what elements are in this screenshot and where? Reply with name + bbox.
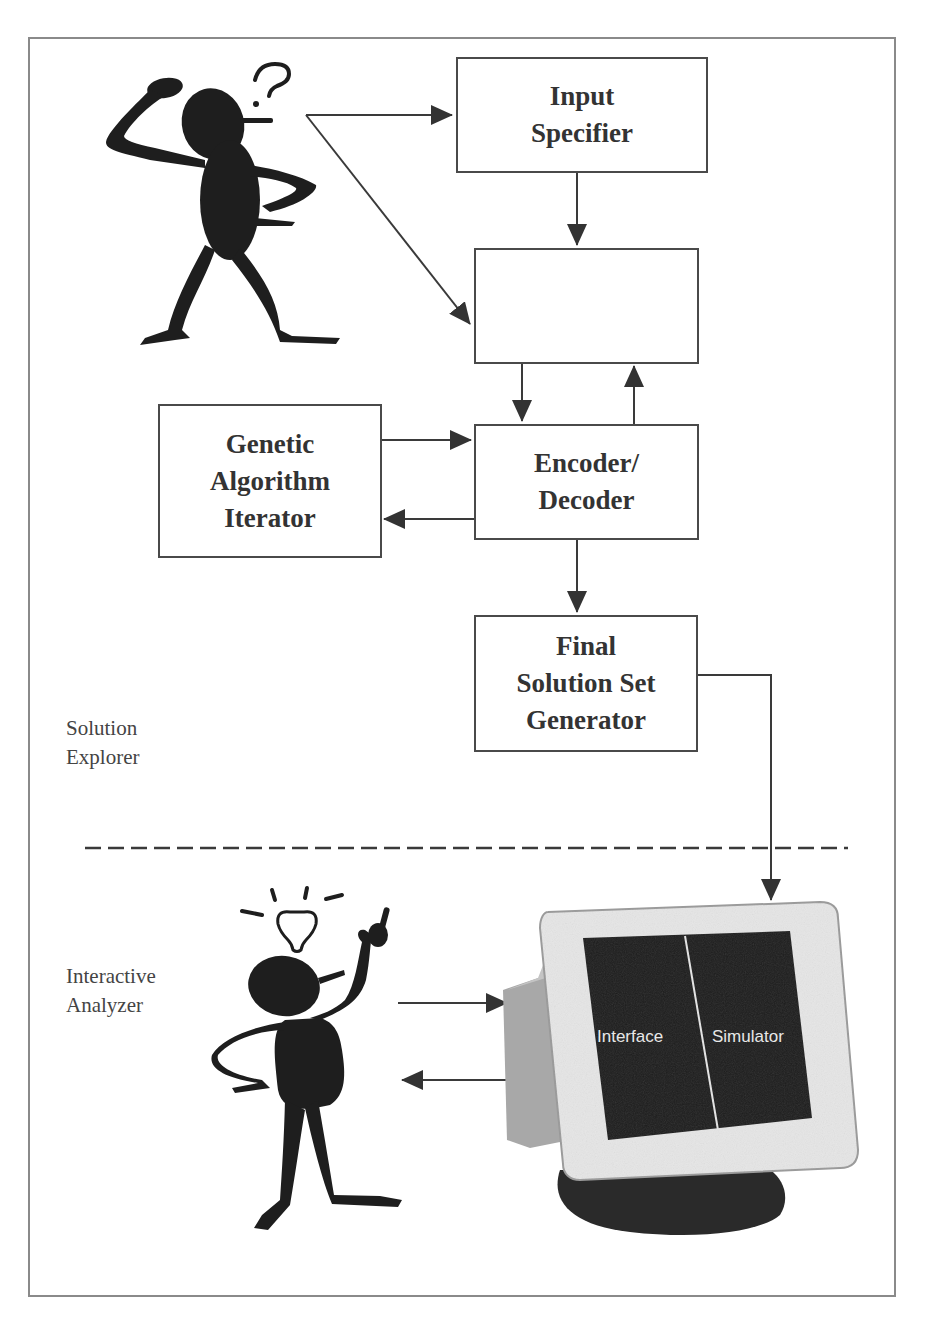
interactive-analyzer-label: Interactive Analyzer (66, 962, 156, 1020)
screen-label-simulator: Simulator (712, 1027, 784, 1046)
arrow-final-to-monitor (697, 675, 771, 900)
genetic-algorithm-iterator-box: Genetic Algorithm Iterator (158, 404, 382, 558)
final-solution-set-generator-label: Final Solution Set Generator (517, 628, 656, 739)
genetic-algorithm-iterator-label: Genetic Algorithm Iterator (210, 426, 330, 537)
diagram-connectors: Interface Simulator (0, 0, 926, 1318)
encoder-decoder-label: Encoder/ Decoder (534, 445, 639, 519)
screen-label-interface: Interface (597, 1027, 663, 1046)
final-solution-set-generator-box: Final Solution Set Generator (474, 615, 698, 752)
question-mark-icon (255, 64, 289, 96)
encoder-decoder-box: Encoder/ Decoder (474, 424, 699, 540)
light-bulb-icon (278, 912, 317, 952)
solution-explorer-label: Solution Explorer (66, 714, 139, 772)
unlabeled-box (474, 248, 699, 364)
confused-user-figure (106, 64, 340, 345)
input-specifier-label: Input Specifier (531, 78, 633, 152)
monitor-illustration: Interface Simulator (503, 902, 858, 1235)
arrow-user-to-unlabeled-box (306, 115, 470, 324)
input-specifier-box: Input Specifier (456, 57, 708, 173)
enlightened-user-figure (211, 888, 402, 1230)
